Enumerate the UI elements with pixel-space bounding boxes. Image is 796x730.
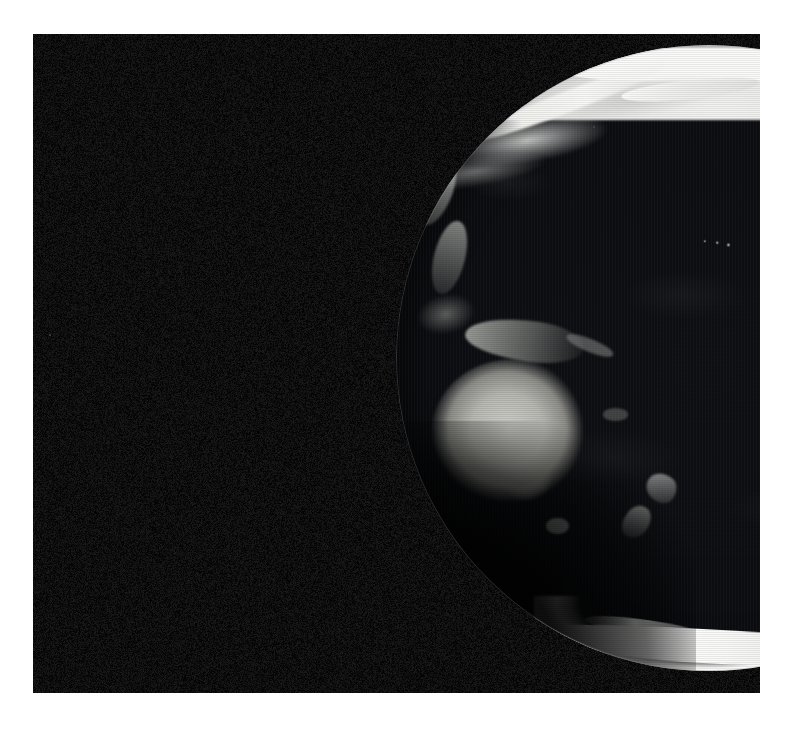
- screenshot-root: Full-disc grayscale satellite view of Ea…: [0, 0, 796, 730]
- satellite-image-plate: [33, 34, 760, 693]
- space-speck: [669, 54, 671, 56]
- space-speck: [49, 334, 51, 336]
- space-speck: [593, 126, 595, 128]
- earth-globe: [396, 45, 760, 671]
